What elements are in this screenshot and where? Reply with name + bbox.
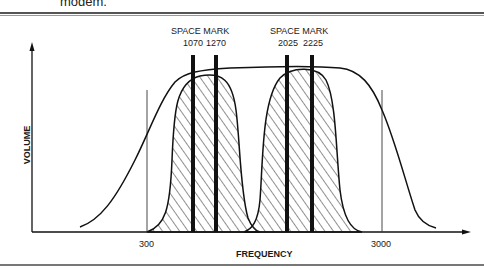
x-axis-label: FREQUENCY — [236, 249, 293, 259]
x-tick-3000: 3000 — [371, 239, 391, 249]
marker-bar-2025 — [285, 55, 289, 232]
bottom-divider — [0, 264, 484, 266]
group-2-header: SPACE MARK — [270, 26, 328, 36]
upper-channel-lobe — [244, 69, 362, 232]
y-axis-arrow-icon — [30, 42, 35, 51]
group-1-header: SPACE MARK — [171, 26, 229, 36]
group-2-freq-mark: 2225 — [303, 38, 323, 48]
telephone-passband-curve — [80, 67, 436, 229]
x-axis-arrow-icon — [462, 230, 471, 235]
x-tick-300: 300 — [139, 239, 154, 249]
group-1-freq-space: 1070 — [183, 38, 203, 48]
marker-bar-1070 — [191, 55, 195, 232]
marker-bar-2225 — [310, 55, 314, 232]
frequency-volume-diagram — [0, 0, 484, 268]
marker-bar-1270 — [214, 55, 218, 232]
group-1-freq-mark: 1270 — [206, 38, 226, 48]
group-2-freq-space: 2025 — [278, 38, 298, 48]
y-axis-label: VOLUME — [22, 120, 32, 170]
